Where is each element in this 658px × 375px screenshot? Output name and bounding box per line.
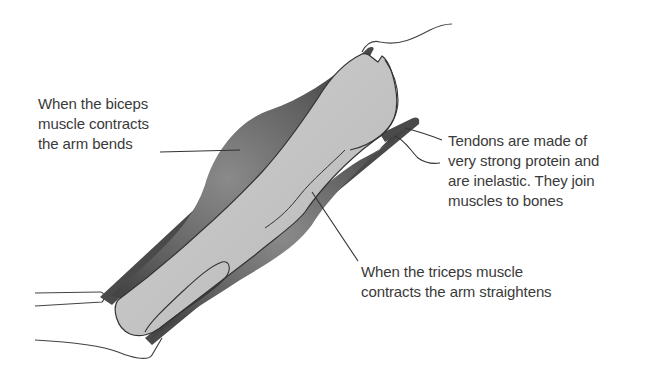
tendons-label: Tendons are made of very strong protein … <box>448 131 599 211</box>
biceps-label-line-3: the arm bends <box>38 134 149 154</box>
tendons-label-line-1: Tendons are made of <box>448 131 599 151</box>
tendon-leader-line-1 <box>405 128 442 140</box>
tendons-label-line-3: are inelastic. They join <box>448 171 599 191</box>
tendons-label-line-2: very strong protein and <box>448 151 599 171</box>
triceps-leader-line <box>312 192 358 261</box>
shoulder-outline <box>362 24 452 52</box>
tendon-leader-line-2 <box>395 136 440 163</box>
tendons-label-line-4: muscles to bones <box>448 191 599 211</box>
biceps-label-line-2: muscle contracts <box>38 114 149 134</box>
humerus-bone <box>115 54 397 336</box>
biceps-label: When the biceps muscle contracts the arm… <box>38 94 149 154</box>
triceps-label: When the triceps muscle contracts the ar… <box>361 262 552 302</box>
triceps-label-line-1: When the triceps muscle <box>361 262 552 282</box>
biceps-label-line-1: When the biceps <box>38 94 149 114</box>
triceps-label-line-2: contracts the arm straightens <box>361 282 552 302</box>
forearm-outline <box>35 292 104 306</box>
forearm-outline-lower <box>35 338 162 358</box>
